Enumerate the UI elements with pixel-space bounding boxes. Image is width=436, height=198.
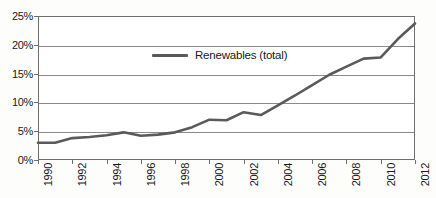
legend-swatch-renewables-total	[152, 54, 188, 57]
legend-label-renewables-total: Renewables (total)	[195, 49, 287, 61]
line-chart: 25% 20% 15% 10% 5% 0% 1990 1992 1994 199…	[0, 0, 436, 198]
legend: Renewables (total)	[152, 49, 287, 61]
series-line-renewables-total	[38, 23, 415, 142]
series-layer	[0, 0, 436, 198]
